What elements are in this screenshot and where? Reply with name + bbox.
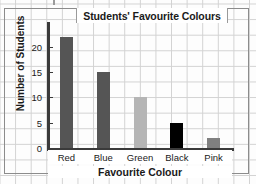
y-tick-label-20: 20 [8, 41, 42, 52]
scan-artifact-mark [53, 0, 55, 5]
y-tick-label-0: 0 [8, 143, 42, 154]
y-tick-mark [49, 148, 53, 149]
bar-black [170, 123, 183, 148]
y-tick-label-5: 5 [8, 117, 42, 128]
x-tick-label-green: Green [127, 152, 153, 163]
x-tick-label-blue: Blue [94, 152, 113, 163]
plot-area [48, 24, 232, 148]
x-tick-label-red: Red [58, 152, 75, 163]
x-axis-label: Favourite Colour [48, 166, 232, 178]
x-tick-label-pink: Pink [204, 152, 222, 163]
bar-pink [207, 138, 220, 148]
bar-green [134, 97, 147, 148]
chart-title: Students' Favourite Colours [76, 8, 228, 23]
x-tick-label-black: Black [165, 152, 188, 163]
bar-red [60, 37, 73, 148]
y-tick-label-15: 15 [8, 67, 42, 78]
bar-blue [97, 72, 110, 148]
y-axis-label: Number of Students [15, 4, 26, 124]
graph-paper-sheet: Students' Favourite Colours Number of St… [0, 0, 256, 184]
y-tick-label-10: 10 [8, 92, 42, 103]
